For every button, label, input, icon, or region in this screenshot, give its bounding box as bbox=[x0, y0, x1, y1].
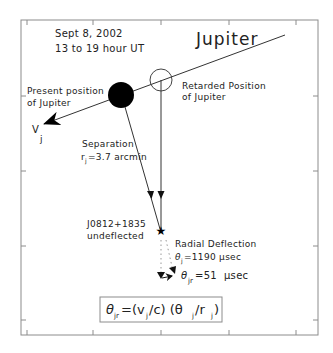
formula-box: θ jr =(v j /c) (θ j /r j ) bbox=[100, 297, 222, 322]
formula-lhs-subscript: jr bbox=[113, 312, 119, 320]
retarded-deflection-subscript: jr bbox=[187, 277, 193, 285]
formula-part4: ) bbox=[214, 302, 219, 317]
radial-deflection-title: Radial Deflection bbox=[175, 239, 257, 249]
velocity-subscript: j bbox=[39, 134, 43, 144]
formula-part1: =(v bbox=[121, 302, 145, 317]
top-ticks bbox=[27, 20, 296, 25]
arrowhead-icon bbox=[169, 266, 176, 274]
formula-part2: /c) (θ bbox=[149, 302, 183, 317]
present-to-source-line bbox=[125, 107, 160, 229]
velocity-symbol: V bbox=[32, 124, 39, 135]
retarded-deflection-symbol: θ bbox=[181, 270, 187, 281]
retarded-deflection-value: =51 μsec bbox=[195, 270, 248, 281]
separation-subscript: j bbox=[84, 157, 87, 165]
retarded-deflection-dotted-line bbox=[166, 240, 173, 271]
arrowhead-icon bbox=[158, 191, 165, 199]
plot-frame bbox=[21, 20, 318, 335]
present-position-marker bbox=[108, 82, 134, 108]
formula-part1-sub: j bbox=[145, 312, 148, 320]
date-label: Sept 8, 2002 bbox=[55, 28, 123, 39]
formula-part3-sub: j bbox=[210, 312, 213, 320]
present-position-label-2: of Jupiter bbox=[27, 98, 71, 108]
jupiter-deflection-diagram: Sept 8, 2002 13 to 19 hour UT Jupiter V … bbox=[0, 0, 333, 353]
present-position-label-1: Present position bbox=[27, 86, 104, 96]
formula-lhs-symbol: θ bbox=[106, 302, 114, 317]
deflection-offset-line bbox=[162, 276, 172, 278]
source-label-2: undeflected bbox=[87, 231, 144, 241]
retarded-position-label-2: of Jupiter bbox=[182, 92, 226, 102]
source-star-icon: ★ bbox=[156, 224, 167, 238]
left-ticks bbox=[21, 96, 26, 320]
separation-title: Separation bbox=[82, 139, 134, 149]
radial-deflection-subscript: j bbox=[180, 257, 183, 265]
arrowhead-icon bbox=[147, 191, 154, 199]
planet-title: Jupiter bbox=[195, 29, 258, 49]
radial-deflection-value: =1190 μsec bbox=[184, 252, 241, 262]
retarded-position-label-1: Retarded Position bbox=[182, 81, 266, 91]
bottom-ticks bbox=[27, 330, 296, 335]
separation-value: =3.7 arcmin bbox=[88, 152, 147, 162]
right-ticks bbox=[313, 96, 318, 320]
time-range-label: 13 to 19 hour UT bbox=[55, 43, 145, 54]
formula-part2-sub: j bbox=[191, 312, 194, 320]
formula-part3: /r bbox=[195, 302, 205, 317]
source-label-1: J0812+1835 bbox=[86, 219, 146, 229]
